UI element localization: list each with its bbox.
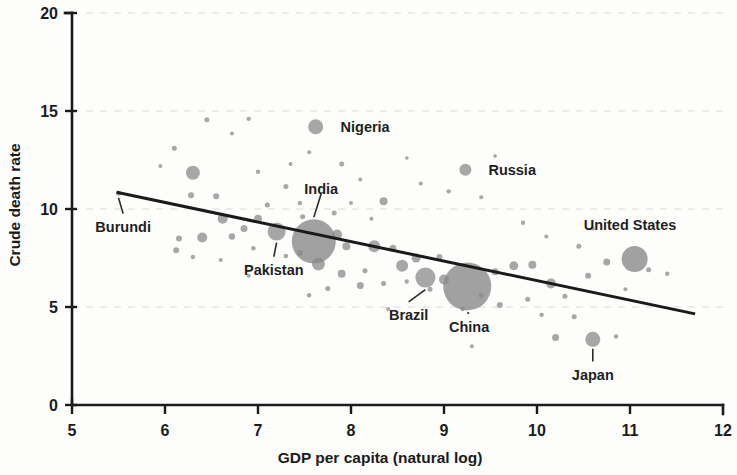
- data-point: [358, 178, 362, 182]
- data-point: [265, 203, 270, 208]
- data-point: [191, 255, 195, 259]
- data-point: [251, 246, 255, 250]
- data-point: [479, 195, 483, 199]
- x-tick-label: 12: [714, 422, 732, 439]
- x-tick-label: 8: [347, 422, 356, 439]
- country-label-united-states: United States: [584, 217, 677, 233]
- data-point: [338, 270, 346, 278]
- leader-line-china: [467, 312, 469, 313]
- data-point: [539, 313, 543, 317]
- data-point: [339, 161, 344, 166]
- country-label-japan: Japan: [572, 367, 614, 383]
- data-point: [396, 260, 408, 272]
- data-point: [572, 314, 577, 319]
- data-point: [230, 132, 234, 136]
- data-point: [332, 210, 337, 215]
- data-point: [283, 184, 288, 189]
- data-point: [307, 150, 311, 154]
- data-point: [614, 334, 618, 338]
- data-point-india: [292, 219, 336, 263]
- data-point: [188, 192, 194, 198]
- data-point: [219, 258, 223, 262]
- country-label-brazil: Brazil: [389, 307, 429, 323]
- regression-line: [117, 192, 695, 314]
- data-point: [544, 234, 548, 238]
- data-point: [380, 197, 388, 205]
- data-point: [357, 282, 364, 289]
- country-label-pakistan: Pakistan: [244, 262, 304, 278]
- data-point: [470, 344, 474, 348]
- data-point: [172, 146, 177, 151]
- data-point: [521, 221, 525, 225]
- data-point: [256, 170, 260, 174]
- country-label-russia: Russia: [488, 162, 536, 178]
- tick-marks: [65, 13, 630, 414]
- data-point: [665, 271, 669, 275]
- leader-line-burundi: [119, 198, 124, 214]
- y-tick-label: 15: [40, 103, 58, 120]
- data-point: [300, 214, 305, 219]
- data-point: [576, 244, 581, 249]
- x-tick-label: 9: [440, 422, 449, 439]
- data-point: [493, 154, 497, 158]
- data-point-united-states: [622, 246, 648, 272]
- data-point-brazil: [415, 268, 435, 288]
- y-tick-label: 10: [40, 201, 58, 218]
- data-point: [229, 233, 235, 239]
- country-label-china: China: [449, 319, 490, 335]
- x-tick-labels: 56789101112: [68, 422, 732, 439]
- x-tick-label: 5: [68, 422, 77, 439]
- data-point: [428, 287, 433, 292]
- data-point: [284, 254, 288, 258]
- data-point: [307, 293, 311, 297]
- data-point: [509, 261, 518, 270]
- data-point: [241, 225, 248, 232]
- y-tick-label: 20: [40, 5, 58, 22]
- y-tick-label: 5: [49, 299, 58, 316]
- leader-line-pakistan: [274, 243, 277, 257]
- data-point: [186, 166, 200, 180]
- data-point: [405, 279, 409, 283]
- x-tick-label: 11: [622, 422, 639, 439]
- data-point: [204, 117, 209, 122]
- data-point-russia: [459, 164, 471, 176]
- data-point-nigeria: [308, 119, 323, 134]
- x-tick-label: 10: [528, 422, 546, 439]
- data-point: [525, 297, 530, 302]
- x-tick-label: 6: [161, 422, 170, 439]
- y-tick-labels: 05101520: [40, 5, 58, 414]
- scatter-chart-figure: 56789101112 05101520 BurundiNigeriaRussi…: [0, 0, 737, 475]
- y-tick-label: 0: [49, 397, 58, 414]
- y-axis-title: Crude death rate: [6, 143, 23, 267]
- data-point: [562, 294, 567, 299]
- data-point: [646, 267, 651, 272]
- axes: [65, 13, 723, 414]
- data-point: [158, 164, 162, 168]
- data-point: [247, 117, 251, 121]
- data-point: [362, 268, 367, 273]
- country-label-india: India: [304, 181, 339, 197]
- data-point: [197, 232, 207, 242]
- data-point: [603, 258, 610, 265]
- data-point: [446, 189, 450, 193]
- data-point: [173, 247, 179, 253]
- data-point: [342, 242, 350, 250]
- data-point: [325, 286, 330, 291]
- data-point: [298, 201, 302, 205]
- data-point: [381, 281, 386, 286]
- data-point-japan: [585, 332, 600, 347]
- data-point: [623, 287, 627, 291]
- data-point: [213, 193, 219, 199]
- data-point: [176, 235, 182, 241]
- country-label-nigeria: Nigeria: [341, 119, 391, 135]
- data-point: [552, 334, 559, 341]
- data-point: [497, 302, 503, 308]
- data-point: [369, 217, 373, 221]
- data-point: [419, 182, 423, 186]
- data-point: [585, 273, 591, 279]
- leader-line-brazil: [409, 290, 426, 302]
- data-point: [405, 156, 409, 160]
- x-axis-title: GDP per capita (natural log): [278, 449, 483, 466]
- trend-line: [117, 192, 695, 314]
- x-tick-label: 7: [254, 422, 263, 439]
